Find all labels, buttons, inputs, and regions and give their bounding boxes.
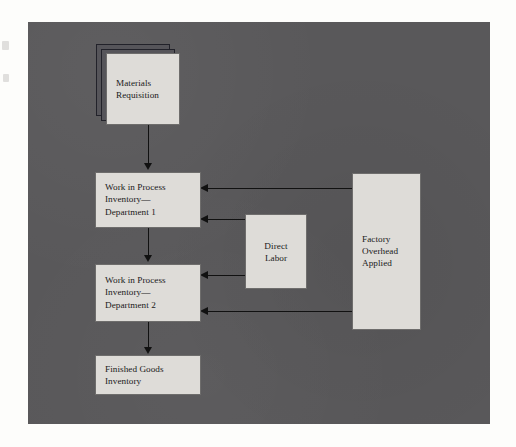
node-wip-department-2[interactable]: Work in Process Inventory— Department 2 xyxy=(95,264,201,322)
diagram-canvas: Materials Requisition Work in Process In… xyxy=(0,0,516,447)
node-label-direct-labor: Direct Labor xyxy=(250,239,302,264)
connector-overhead-to-wip1 xyxy=(208,188,354,189)
arrowhead-labor-to-wip2 xyxy=(200,271,208,279)
connector-wip1-to-wip2 xyxy=(148,228,149,257)
node-materials-requisition[interactable]: Materials Requisition xyxy=(106,53,180,125)
connector-wip2-to-finished-goods xyxy=(148,322,149,349)
arrowhead-wip2-to-finished-goods xyxy=(144,347,152,354)
node-finished-goods-inventory[interactable]: Finished Goods Inventory xyxy=(95,355,201,395)
node-label-factory-overhead-applied: Factory Overhead Applied xyxy=(362,233,415,270)
node-direct-labor[interactable]: Direct Labor xyxy=(245,214,307,289)
connector-labor-to-wip1 xyxy=(208,219,247,220)
arrowhead-overhead-to-wip1 xyxy=(200,184,208,192)
arrowhead-materials-to-wip1 xyxy=(144,163,152,170)
arrowhead-labor-to-wip1 xyxy=(200,215,208,223)
connector-labor-to-wip2 xyxy=(208,275,247,276)
node-label-materials-requisition: Materials Requisition xyxy=(116,77,174,102)
node-label-wip-department-1: Work in Process Inventory— Department 1 xyxy=(105,181,195,218)
connector-overhead-to-wip2 xyxy=(208,311,354,312)
scan-artifact xyxy=(2,41,9,50)
arrowhead-overhead-to-wip2 xyxy=(200,307,208,315)
node-wip-department-1[interactable]: Work in Process Inventory— Department 1 xyxy=(95,172,201,228)
node-factory-overhead-applied[interactable]: Factory Overhead Applied xyxy=(352,173,421,330)
scan-artifact xyxy=(3,74,9,82)
arrowhead-wip1-to-wip2 xyxy=(144,255,152,262)
node-label-wip-department-2: Work in Process Inventory— Department 2 xyxy=(105,274,195,311)
node-label-finished-goods-inventory: Finished Goods Inventory xyxy=(105,363,195,388)
